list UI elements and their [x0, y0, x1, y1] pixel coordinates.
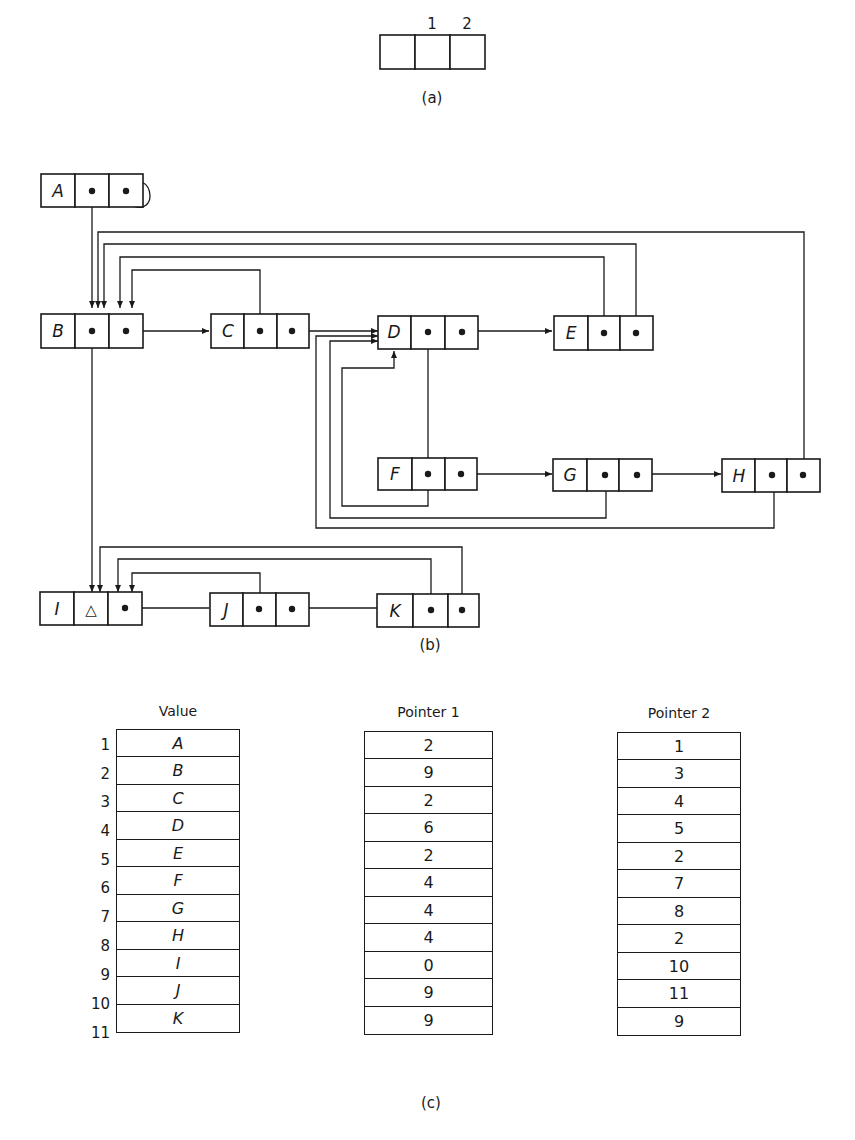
pointer1-cell: 6	[364, 813, 493, 842]
row-index: 10	[84, 990, 110, 1019]
pointer2-cell: 2	[617, 842, 741, 871]
row-index: 8	[84, 932, 110, 961]
value-cell: B	[116, 756, 240, 785]
caption-a: (a)	[422, 89, 443, 107]
svg-text:B: B	[52, 321, 64, 341]
node-C: C	[211, 314, 309, 348]
node-format-figure: 1 2 (a)	[380, 15, 485, 107]
pointer1-cell: 2	[364, 841, 493, 870]
pointer1-header: Pointer 1	[364, 701, 493, 723]
pointer2-column: Pointer 2 1 3 4 5 2 7 8 2 10 11 9	[617, 702, 741, 1036]
pointer1-cell: 4	[364, 896, 493, 925]
field-label-1: 1	[427, 15, 437, 33]
pointer2-cell: 5	[617, 814, 741, 843]
pointer2-cell: 10	[617, 952, 741, 981]
row-index: 11	[84, 1019, 110, 1048]
svg-text:C: C	[222, 321, 234, 341]
row-index: 6	[84, 874, 110, 903]
svg-text:K: K	[389, 601, 402, 621]
pointer1-column: Pointer 1 2 9 2 6 2 4 4 4 0 9 9	[364, 701, 493, 1035]
node-B: B	[41, 314, 143, 348]
node-E: E	[554, 316, 653, 350]
value-cell: C	[116, 784, 240, 813]
row-index: 4	[84, 817, 110, 846]
svg-text:H: H	[733, 466, 746, 486]
pointer1-cell: 2	[364, 786, 493, 815]
pointer1-cell: 9	[364, 758, 493, 787]
pointer2-cell: 9	[617, 1007, 741, 1036]
node-A: A	[41, 174, 143, 207]
node-I: I △	[40, 592, 142, 625]
caption-b: (b)	[419, 636, 440, 654]
pointer1-cell: 2	[364, 731, 493, 760]
value-cell: I	[116, 949, 240, 978]
value-cell: H	[116, 921, 240, 950]
node-D: D	[378, 316, 478, 349]
value-column: Value A B C D E F G H I J K	[116, 700, 240, 1033]
row-index: 9	[84, 961, 110, 990]
svg-text:E: E	[566, 323, 577, 343]
value-cell: A	[116, 729, 240, 758]
row-index: 2	[84, 760, 110, 789]
pointer-connectors	[92, 182, 804, 608]
pointer1-cell: 0	[364, 951, 493, 980]
pointer2-cell: 1	[617, 732, 741, 761]
row-index: 1	[84, 731, 110, 760]
svg-text:A: A	[51, 181, 64, 201]
pointer1-cell: 4	[364, 923, 493, 952]
node-H: H	[722, 459, 820, 492]
row-index: 5	[84, 846, 110, 875]
value-cell: E	[116, 839, 240, 868]
svg-text:I: I	[54, 599, 59, 619]
null-triangle-icon: △	[85, 601, 97, 619]
value-cell: G	[116, 894, 240, 923]
node-G: G	[553, 459, 652, 491]
pointer2-cell: 3	[617, 759, 741, 788]
pointer1-cell: 9	[364, 1006, 493, 1035]
pointer2-cell: 2	[617, 924, 741, 953]
pointer2-cell: 4	[617, 787, 741, 816]
value-cell: K	[116, 1004, 240, 1033]
node-K: K	[377, 594, 479, 627]
svg-text:G: G	[563, 465, 576, 485]
pointer1-cell: 4	[364, 868, 493, 897]
field-label-2: 2	[462, 15, 472, 33]
node-J: J	[210, 593, 309, 626]
row-index: 3	[84, 788, 110, 817]
value-cell: D	[116, 811, 240, 840]
svg-text:F: F	[390, 464, 400, 484]
pointer2-cell: 11	[617, 979, 741, 1008]
pointer2-cell: 7	[617, 869, 741, 898]
caption-c: (c)	[401, 1094, 461, 1112]
pointer2-cell: 8	[617, 897, 741, 926]
svg-text:D: D	[387, 322, 400, 342]
pointer2-header: Pointer 2	[617, 702, 741, 724]
value-cell: J	[116, 976, 240, 1005]
pointer1-cell: 9	[364, 978, 493, 1007]
value-cell: F	[116, 866, 240, 895]
node-F: F	[378, 458, 477, 490]
row-index: 7	[84, 903, 110, 932]
value-header: Value	[116, 700, 240, 722]
